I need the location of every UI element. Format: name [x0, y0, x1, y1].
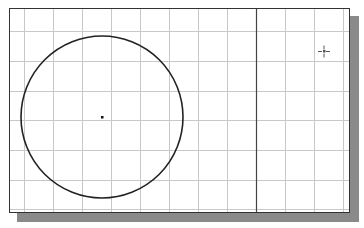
crosshair-cursor-icon [318, 46, 330, 58]
canvas-drawing [10, 9, 350, 213]
drawing-canvas[interactable] [9, 8, 350, 213]
circle-center-point [101, 116, 104, 119]
